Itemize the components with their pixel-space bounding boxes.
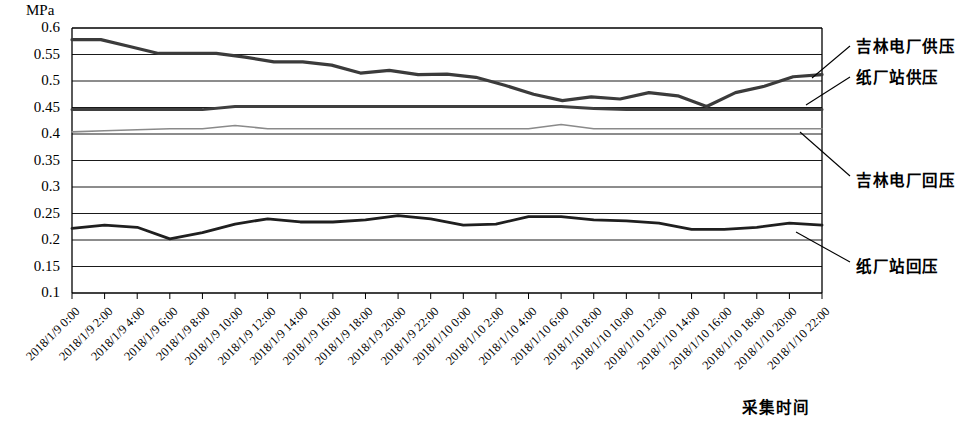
pressure-trend-chart: MPa 0.60.550.50.450.40.350.30.250.20.150… bbox=[0, 0, 967, 425]
series-line bbox=[72, 124, 822, 131]
series-line bbox=[72, 40, 822, 107]
series-callout-label: 吉林电厂回压 bbox=[856, 168, 955, 190]
callout-leader-line bbox=[800, 132, 850, 176]
series-callout-label: 纸厂站回压 bbox=[856, 254, 939, 276]
series-line bbox=[72, 106, 822, 109]
series-callout-label: 吉林电厂供压 bbox=[856, 34, 955, 56]
callout-leader-line bbox=[812, 46, 850, 78]
callout-leader-line bbox=[796, 232, 850, 262]
x-axis-title: 采集时间 bbox=[742, 395, 810, 417]
series-callout-label: 纸厂站供压 bbox=[856, 65, 939, 87]
series-line bbox=[72, 216, 822, 239]
